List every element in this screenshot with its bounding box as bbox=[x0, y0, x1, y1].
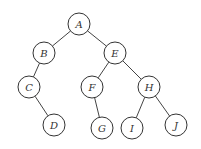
node-b: B bbox=[33, 42, 55, 64]
node-h: H bbox=[138, 76, 160, 98]
edge-e-f bbox=[98, 62, 109, 78]
edge-a-e bbox=[88, 31, 107, 46]
node-label: E bbox=[110, 48, 119, 59]
node-label: B bbox=[39, 48, 47, 59]
node-d: D bbox=[43, 114, 65, 136]
nodes: ABECFHDGIJ bbox=[18, 13, 187, 139]
node-label: A bbox=[74, 19, 82, 30]
node-a: A bbox=[68, 13, 90, 35]
edge-f-g bbox=[95, 98, 100, 118]
edge-c-d bbox=[35, 96, 48, 116]
edges bbox=[33, 31, 169, 118]
node-g: G bbox=[91, 117, 113, 139]
node-j: J bbox=[165, 114, 187, 136]
node-label: H bbox=[144, 82, 154, 93]
node-label: D bbox=[49, 120, 58, 131]
edge-h-j bbox=[155, 96, 169, 116]
edge-e-h bbox=[123, 61, 141, 79]
node-label: G bbox=[98, 123, 106, 134]
binary-tree-diagram: ABECFHDGIJ bbox=[0, 0, 201, 149]
edge-h-i bbox=[136, 97, 145, 118]
node-label: J bbox=[172, 120, 179, 131]
edge-b-c bbox=[33, 63, 39, 77]
node-e: E bbox=[104, 42, 126, 64]
node-i: I bbox=[121, 117, 143, 139]
node-c: C bbox=[18, 76, 40, 98]
node-label: C bbox=[25, 82, 33, 93]
node-f: F bbox=[81, 76, 103, 98]
edge-a-b bbox=[52, 31, 70, 46]
node-label: F bbox=[88, 82, 97, 93]
